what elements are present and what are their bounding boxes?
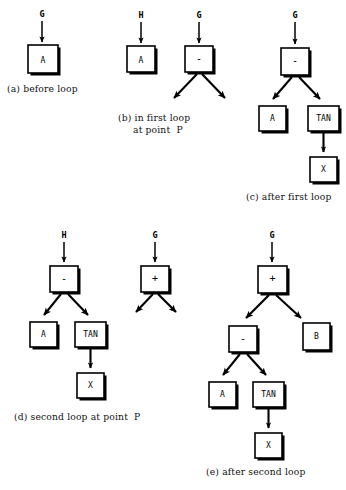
node-d5-label: + [152, 273, 158, 284]
panel-c: G - A TAN X [259, 10, 342, 185]
node-a1: A [28, 45, 61, 76]
node-e4-label: A [220, 390, 225, 399]
node-e1: + [258, 266, 290, 296]
panel-d: H - A TAN X [30, 230, 176, 401]
panel-e: G + - B A [209, 230, 333, 461]
node-d3: TAN [75, 322, 109, 350]
figure-container: G A H A G - [0, 0, 346, 490]
node-e6-label: X [266, 441, 271, 450]
node-c2-label: A [270, 114, 275, 123]
node-e2: - [229, 326, 260, 355]
node-e3-label: B [314, 332, 319, 341]
input-label-g-c: G [292, 10, 297, 20]
input-label-g-e: G [269, 230, 274, 240]
node-b1: A [127, 46, 158, 75]
dangling-edge-d-left [136, 294, 153, 312]
caption-b-line1: (b) in first loop [118, 112, 190, 123]
input-label-g-b: G [196, 10, 201, 20]
caption-e: (e) after second loop [206, 466, 305, 477]
node-c3-label: TAN [316, 114, 331, 123]
node-b2: - [185, 46, 216, 75]
node-e4: A [209, 382, 239, 410]
input-label-g-d: G [152, 230, 157, 240]
edge-e2-e4 [223, 354, 240, 375]
node-a1-label: A [41, 56, 46, 65]
panel-a: G A [28, 9, 61, 76]
node-e3: B [303, 323, 333, 353]
node-d5: + [141, 266, 172, 295]
panel-b: H A G - [127, 10, 225, 98]
edge-d1-d3 [68, 294, 88, 315]
node-e5: TAN [253, 382, 287, 410]
caption-c: (c) after first loop [246, 191, 332, 202]
edge-e2-e5 [247, 354, 266, 375]
input-label-h-b: H [138, 10, 143, 20]
caption-d: (d) second loop at point P [14, 411, 140, 422]
node-e2-label: - [240, 333, 246, 344]
edge-d1-d2 [44, 294, 61, 315]
node-c1: - [281, 48, 312, 78]
input-label-h-d: H [61, 230, 66, 240]
dangling-edge-b-left [174, 74, 197, 98]
node-c1-label: - [292, 55, 298, 66]
node-e5-label: TAN [261, 390, 276, 399]
input-label-g-a: G [39, 9, 44, 19]
node-d1: - [50, 266, 81, 295]
node-d2: A [30, 322, 60, 350]
node-d4-label: X [88, 381, 93, 390]
node-c4: X [310, 157, 340, 185]
node-b2-label: - [196, 53, 202, 64]
node-d3-label: TAN [83, 330, 98, 339]
node-d1-label: - [61, 273, 67, 284]
node-d2-label: A [41, 330, 46, 339]
edge-e1-e3 [276, 295, 301, 318]
edge-c1-c2 [273, 77, 292, 99]
node-e1-label: + [269, 273, 275, 284]
caption-a: (a) before loop [7, 83, 78, 94]
node-e6: X [255, 433, 285, 461]
node-c4-label: X [321, 165, 326, 174]
caption-b-line2: at point P [133, 124, 183, 135]
node-c3: TAN [308, 106, 342, 134]
dangling-edge-b-right [202, 74, 225, 98]
dangling-edge-d-right [158, 294, 176, 312]
node-b1-label: A [139, 56, 144, 65]
edge-e1-e2 [246, 295, 269, 318]
node-c2: A [259, 106, 289, 134]
node-d4: X [77, 373, 107, 401]
edge-c1-c3 [299, 77, 320, 99]
